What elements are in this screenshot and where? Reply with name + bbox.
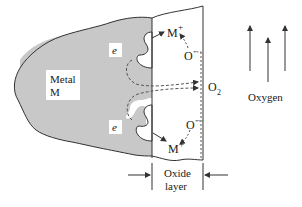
oxygen-ion-top: O (184, 49, 193, 63)
oxygen-ion-bottom: O (186, 118, 195, 132)
electron-label-top: e (112, 44, 117, 56)
oxide-layer-label-line1: Oxide (164, 167, 191, 179)
oxygen-ion-top-charge: − (193, 47, 198, 56)
oxide-layer-label-line2: layer (165, 180, 187, 192)
o2-label: O (208, 80, 217, 94)
metal-label-line1: Metal (50, 73, 76, 85)
corrosion-oxidation-diagram: Metal M e e M + M + O − O − O 2 Oxygen O… (0, 0, 302, 207)
metal-label-line2: M (50, 86, 60, 98)
oxygen-label: Oxygen (248, 91, 283, 103)
metal-ion-top-charge: + (178, 22, 183, 32)
ion-arrow-top (152, 32, 164, 38)
electron-label-bottom: e (112, 121, 117, 133)
ion-arrow-bottom (153, 133, 166, 141)
oxygen-ion-bottom-charge: − (195, 116, 200, 125)
oxide-bottom-edge (152, 156, 203, 161)
oxide-top-edge (152, 6, 203, 18)
o2-subscript: 2 (217, 88, 221, 97)
oxygen-ion-arrow-top (180, 34, 188, 48)
metal-ion-top: M (167, 26, 178, 40)
metal-ion-bottom: M (168, 142, 179, 156)
